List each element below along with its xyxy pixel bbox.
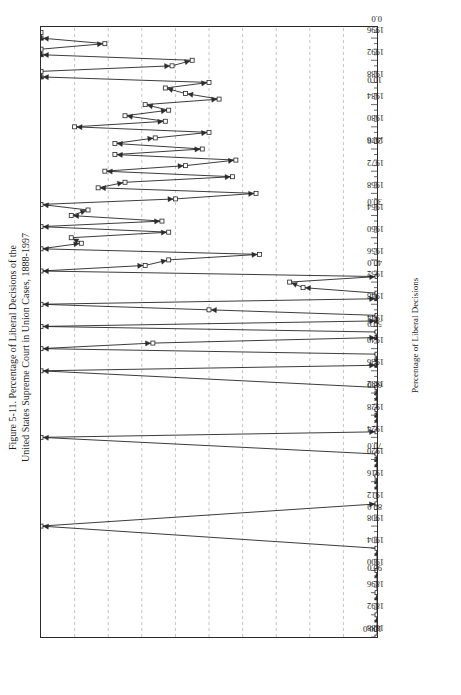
figure-page: Figure 5-11. Percentage of Liberal Decis…	[0, 0, 461, 695]
year-tick-label: 1924	[367, 424, 384, 434]
year-tick-label: 1908	[367, 513, 384, 523]
year-tick-label: 1944	[367, 313, 384, 323]
year-tick-label: 1992	[367, 47, 384, 57]
year-tick-label: 1920	[367, 446, 384, 456]
year-tick-label: 1900	[367, 557, 384, 567]
figure-title: Figure 5-11. Percentage of Liberal Decis…	[6, 0, 32, 695]
chart-canvas	[41, 27, 377, 637]
year-tick-label: 1896	[367, 579, 384, 589]
year-tick-label: 1972	[367, 158, 384, 168]
year-tick-label: 1888	[367, 624, 384, 634]
plot-area	[40, 26, 378, 638]
year-tick-label: 1976	[367, 136, 384, 146]
year-tick-label: 1956	[367, 246, 384, 256]
year-tick-label: 1940	[367, 335, 384, 345]
y-axis-title: Percentage of Liberal Decisions	[410, 278, 420, 393]
year-tick-label: 1996	[367, 25, 384, 35]
year-tick-label: 1952	[367, 269, 384, 279]
year-tick-label: 1936	[367, 357, 384, 367]
year-tick-label: 1932	[367, 380, 384, 390]
percentage-tick-label: 40.0	[367, 258, 382, 268]
year-tick-label: 1984	[367, 91, 384, 101]
year-tick-label: 1948	[367, 291, 384, 301]
year-tick-label: 1928	[367, 402, 384, 412]
figure-title-line-1: Figure 5-11. Percentage of Liberal Decis…	[6, 0, 19, 695]
year-tick-label: 1980	[367, 113, 384, 123]
year-tick-label: 1892	[367, 601, 384, 611]
year-tick-label: 1912	[367, 490, 384, 500]
year-tick-label: 1904	[367, 535, 384, 545]
year-tick-label: 1964	[367, 202, 384, 212]
percentage-tick-label: 80.0	[367, 502, 382, 512]
gridlines	[75, 27, 344, 637]
figure-title-line-2: United States Supreme Court in Union Cas…	[19, 0, 32, 695]
year-tick-label: 1960	[367, 224, 384, 234]
year-tick-label: 1988	[367, 69, 384, 79]
percentage-tick-label: 0.0	[371, 14, 382, 24]
year-tick-label: 1916	[367, 468, 384, 478]
rotated-figure: Figure 5-11. Percentage of Liberal Decis…	[0, 0, 461, 695]
year-tick-label: 1968	[367, 180, 384, 190]
